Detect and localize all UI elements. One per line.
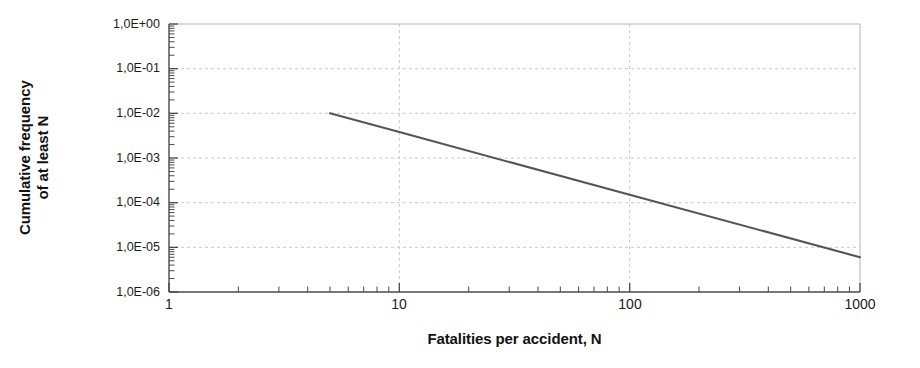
gridlines	[169, 24, 860, 292]
plot-area	[0, 0, 920, 368]
data-series-line	[330, 113, 860, 257]
chart-figure: Cumulative frequency of at least N 1,0E+…	[0, 0, 920, 368]
